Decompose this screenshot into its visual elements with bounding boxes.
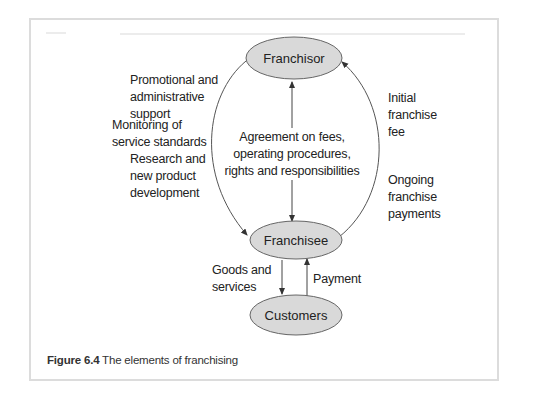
label-agreement: Agreement on fees, operating procedures,… <box>212 129 372 180</box>
caption-text: The elements of franchising <box>99 354 238 366</box>
label-initial-fee: Initial franchise fee <box>388 90 437 141</box>
label-line: payments <box>388 206 441 223</box>
label-line: fee <box>388 124 437 141</box>
label-line: administrative <box>130 89 218 106</box>
label-ongoing-payments: Ongoing franchise payments <box>388 172 441 223</box>
label-line: development <box>130 185 205 202</box>
label-promotional-support: Promotional and administrative support <box>130 72 218 123</box>
node-franchisor: Franchisor <box>246 37 342 79</box>
node-franchisee: Franchisee <box>250 221 342 259</box>
node-franchisor-label: Franchisor <box>263 51 325 66</box>
label-line: franchise <box>388 189 441 206</box>
label-line: Monitoring of <box>112 117 207 134</box>
franchising-diagram: Franchisor Franchisee Customers <box>0 0 542 403</box>
label-line: Initial <box>388 90 437 107</box>
label-line: service standards <box>112 134 207 151</box>
node-customers: Customers <box>250 295 342 335</box>
label-line: Promotional and <box>130 72 218 89</box>
label-line: operating procedures, <box>212 146 372 163</box>
node-customers-label: Customers <box>265 308 328 323</box>
label-line: rights and responsibilities <box>212 163 372 180</box>
label-line: Research and <box>130 151 205 168</box>
label-payment: Payment <box>313 271 361 288</box>
label-line: new product <box>130 168 205 185</box>
label-research-development: Research and new product development <box>130 151 205 202</box>
label-monitoring-standards: Monitoring of service standards <box>112 117 207 151</box>
label-goods-services: Goods and services <box>212 262 271 296</box>
label-line: services <box>212 279 271 296</box>
label-line: Payment <box>313 271 361 288</box>
figure-caption: Figure 6.4 The elements of franchising <box>47 354 238 366</box>
label-line: Agreement on fees, <box>212 129 372 146</box>
node-franchisee-label: Franchisee <box>264 233 328 248</box>
label-line: Ongoing <box>388 172 441 189</box>
caption-number: Figure 6.4 <box>47 354 99 366</box>
label-line: franchise <box>388 107 437 124</box>
label-line: Goods and <box>212 262 271 279</box>
